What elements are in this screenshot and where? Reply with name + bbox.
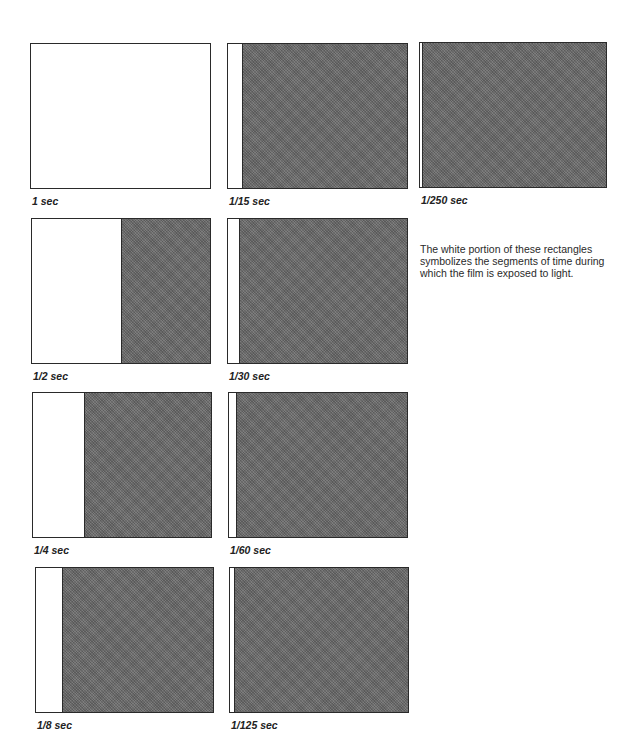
exposure-panel: 1/2 sec [31, 218, 211, 384]
exposure-rectangle [32, 392, 212, 538]
exposure-rectangle [228, 392, 408, 538]
exposure-rectangle [419, 42, 607, 188]
exposure-panel: 1/60 sec [228, 392, 408, 558]
shutter-speed-label: 1/15 sec [229, 195, 270, 207]
exposure-rectangle [229, 567, 409, 713]
exposure-panel: 1/4 sec [32, 392, 212, 558]
unexposed-segment [422, 43, 606, 187]
unexposed-segment [236, 393, 407, 537]
unexposed-segment [234, 568, 408, 712]
shutter-speed-label: 1/125 sec [231, 719, 278, 731]
unexposed-segment [121, 219, 210, 363]
shutter-speed-label: 1/250 sec [421, 194, 468, 206]
unexposed-segment [62, 568, 213, 712]
shutter-speed-label: 1 sec [32, 195, 58, 207]
unexposed-segment [239, 219, 407, 363]
shutter-speed-label: 1/30 sec [229, 370, 270, 382]
exposure-rectangle [35, 567, 214, 713]
caption-note: The white portion of these rectangles sy… [420, 243, 620, 279]
unexposed-segment [242, 44, 407, 188]
shutter-speed-label: 1/60 sec [230, 544, 271, 556]
unexposed-segment [84, 393, 211, 537]
exposure-panel: 1/30 sec [227, 218, 408, 384]
exposure-rectangle [227, 43, 408, 189]
exposure-rectangle [227, 218, 408, 364]
exposure-panel: 1/8 sec [35, 567, 214, 733]
exposure-panel: 1/250 sec [419, 42, 607, 208]
shutter-speed-label: 1/4 sec [34, 544, 69, 556]
exposure-rectangle [30, 43, 211, 189]
exposure-rectangle [31, 218, 211, 364]
shutter-speed-label: 1/2 sec [33, 370, 68, 382]
exposure-panel: 1/125 sec [229, 567, 409, 733]
exposure-panel: 1/15 sec [227, 43, 408, 209]
shutter-speed-label: 1/8 sec [37, 719, 72, 731]
exposure-panel: 1 sec [30, 43, 211, 209]
